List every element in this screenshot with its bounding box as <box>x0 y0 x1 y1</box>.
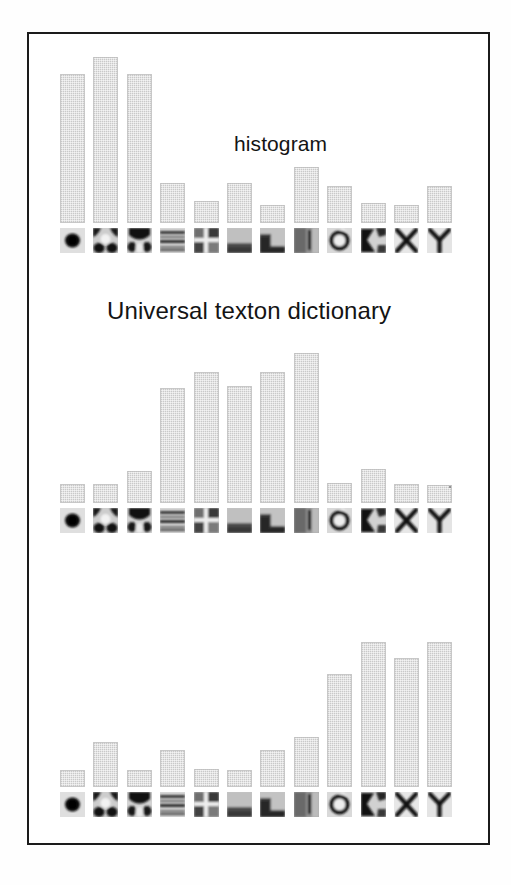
bar-middle-9 <box>327 483 352 503</box>
texton-patch-dark-lower-band <box>227 792 252 817</box>
bar-middle-10 <box>361 469 386 503</box>
texton-patch-vertical-bar-right <box>294 792 319 817</box>
texton-patch-dark-ring <box>327 508 352 533</box>
texton-patch-horizontal-stripes <box>160 508 185 533</box>
texton-patch-cross-quadrant <box>194 228 219 253</box>
bar-top-7 <box>260 205 285 223</box>
bar-bottom-3 <box>127 770 152 787</box>
histogram-label: histogram <box>234 132 327 156</box>
bar-bottom-6 <box>227 770 252 787</box>
texton-patch-dark-lower-band <box>227 228 252 253</box>
texton-patch-y-junction <box>427 792 452 817</box>
texton-patch-x-junction <box>394 228 419 253</box>
figure-canvas: histogram Universal texton dictionary <box>0 0 511 885</box>
texton-patch-dark-left-step <box>260 228 285 253</box>
texton-patch-cross-quadrant <box>194 508 219 533</box>
texton-patch-dark-ring <box>327 228 352 253</box>
bar-middle-5 <box>194 372 219 503</box>
texton-patch-dark-corners-bright-center <box>93 508 118 533</box>
bar-middle-1 <box>60 484 85 503</box>
texton-patch-dark-wedge-left <box>361 792 386 817</box>
texton-patch-dark-corners-bright-center <box>93 228 118 253</box>
bar-middle-4 <box>160 388 185 503</box>
texton-patch-dark-corners-bright-center <box>93 792 118 817</box>
bar-top-4 <box>160 183 185 223</box>
texton-patch-dark-blob-center <box>60 792 85 817</box>
texton-patch-horizontal-stripes <box>160 228 185 253</box>
bar-middle-11 <box>394 484 419 503</box>
bar-middle-6 <box>227 386 252 503</box>
bar-bottom-10 <box>361 642 386 787</box>
texton-patch-dark-ring <box>327 792 352 817</box>
bar-bottom-8 <box>294 737 319 787</box>
bar-bottom-12 <box>427 642 452 787</box>
bar-bottom-9 <box>327 674 352 787</box>
bar-middle-7 <box>260 372 285 503</box>
texton-patch-dark-left-step <box>260 792 285 817</box>
bar-top-9 <box>327 186 352 223</box>
dictionary-label: Universal texton dictionary <box>107 297 391 325</box>
bar-bottom-5 <box>194 769 219 787</box>
texton-patch-dark-lower-band <box>227 508 252 533</box>
bar-top-11 <box>394 205 419 223</box>
bar-bottom-11 <box>394 658 419 787</box>
bar-middle-3 <box>127 471 152 503</box>
bar-top-10 <box>361 203 386 223</box>
texton-patch-dark-wedge-left <box>361 508 386 533</box>
bar-bottom-7 <box>260 750 285 787</box>
texton-patch-vertical-bar-right <box>294 228 319 253</box>
scan-artifact-dot <box>449 486 451 488</box>
texton-patch-y-junction <box>427 228 452 253</box>
texton-patch-dark-left-step <box>260 508 285 533</box>
bar-top-8 <box>294 167 319 223</box>
bar-top-1 <box>60 74 85 223</box>
bar-top-12 <box>427 186 452 223</box>
texton-patch-dark-arch-top <box>127 228 152 253</box>
bar-middle-2 <box>93 484 118 503</box>
texton-patch-y-junction <box>427 508 452 533</box>
texton-patch-dark-blob-center <box>60 228 85 253</box>
bar-bottom-4 <box>160 750 185 787</box>
texton-patch-dark-blob-center <box>60 508 85 533</box>
texton-patch-x-junction <box>394 792 419 817</box>
bar-bottom-1 <box>60 770 85 787</box>
bar-top-5 <box>194 201 219 223</box>
texton-patch-x-junction <box>394 508 419 533</box>
figure-frame: histogram Universal texton dictionary <box>27 32 490 845</box>
bar-middle-8 <box>294 353 319 503</box>
bar-top-3 <box>127 74 152 223</box>
bar-bottom-2 <box>93 742 118 787</box>
bar-top-6 <box>227 183 252 223</box>
texton-patch-vertical-bar-right <box>294 508 319 533</box>
texton-patch-cross-quadrant <box>194 792 219 817</box>
texton-patch-horizontal-stripes <box>160 792 185 817</box>
texton-patch-dark-arch-top <box>127 508 152 533</box>
texton-patch-dark-arch-top <box>127 792 152 817</box>
texton-patch-dark-wedge-left <box>361 228 386 253</box>
bar-top-2 <box>93 57 118 223</box>
